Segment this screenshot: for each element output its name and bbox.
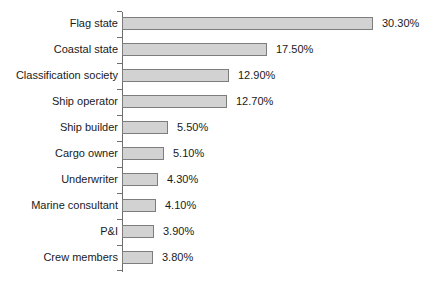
axis-tick — [117, 11, 122, 12]
category-label: Crew members — [0, 249, 118, 265]
bar-row: Ship operator12.70% — [0, 95, 438, 108]
bar-value-label: 5.10% — [173, 145, 204, 161]
axis-tick — [117, 270, 122, 271]
bar-value-label: 3.90% — [163, 223, 194, 239]
bar — [122, 95, 227, 108]
bar-row: P&I3.90% — [0, 225, 438, 238]
category-label: Flag state — [0, 15, 118, 31]
bar-value-label: 4.10% — [165, 197, 196, 213]
bar-row: Classification society12.90% — [0, 69, 438, 82]
bar-value-label: 12.90% — [238, 67, 275, 83]
axis-tick — [117, 193, 122, 194]
category-label: P&I — [0, 223, 118, 239]
axis-tick — [117, 245, 122, 246]
bar-value-label: 3.80% — [162, 249, 193, 265]
bar — [122, 17, 373, 30]
axis-tick — [117, 37, 122, 38]
bar-row: Flag state30.30% — [0, 17, 438, 30]
bar-row: Cargo owner5.10% — [0, 147, 438, 160]
bar — [122, 121, 168, 134]
bar-row: Ship builder5.50% — [0, 121, 438, 134]
bar-row: Crew members3.80% — [0, 251, 438, 264]
category-label: Marine consultant — [0, 197, 118, 213]
bar-chart: Flag state30.30%Coastal state17.50%Class… — [0, 0, 438, 283]
bar — [122, 225, 154, 238]
category-label: Cargo owner — [0, 145, 118, 161]
bar — [122, 251, 153, 264]
bar-value-label: 30.30% — [382, 15, 419, 31]
category-label: Classification society — [0, 67, 118, 83]
bar-value-label: 4.30% — [167, 171, 198, 187]
axis-tick — [117, 89, 122, 90]
bar — [122, 43, 267, 56]
bar-row: Coastal state17.50% — [0, 43, 438, 56]
axis-tick — [117, 219, 122, 220]
bar — [122, 69, 229, 82]
bar-row: Underwriter4.30% — [0, 173, 438, 186]
bar-row: Marine consultant4.10% — [0, 199, 438, 212]
bar — [122, 147, 164, 160]
axis-tick — [117, 141, 122, 142]
bar — [122, 173, 158, 186]
axis-tick — [117, 115, 122, 116]
category-label: Underwriter — [0, 171, 118, 187]
bar — [122, 199, 156, 212]
bar-value-label: 17.50% — [276, 41, 313, 57]
axis-tick — [117, 167, 122, 168]
bar-value-label: 5.50% — [177, 119, 208, 135]
category-label: Coastal state — [0, 41, 118, 57]
bar-value-label: 12.70% — [236, 93, 273, 109]
axis-tick — [117, 63, 122, 64]
category-label: Ship builder — [0, 119, 118, 135]
category-label: Ship operator — [0, 93, 118, 109]
